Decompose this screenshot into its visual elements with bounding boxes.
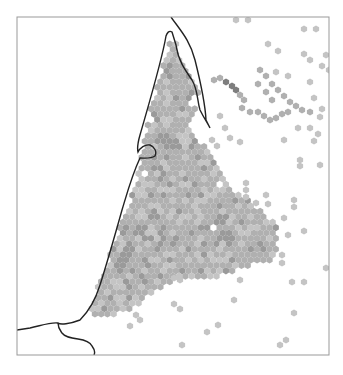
hexbin-map — [0, 0, 343, 375]
map-canvas — [0, 0, 343, 375]
